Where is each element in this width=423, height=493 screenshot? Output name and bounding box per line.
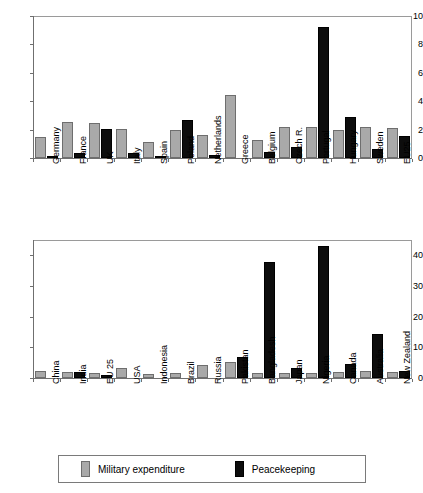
bar-military-expenditure xyxy=(89,123,100,158)
x-tick-mark xyxy=(412,379,413,382)
legend-label-military: Military expenditure xyxy=(98,464,185,475)
x-axis-label: Sweden xyxy=(375,131,385,164)
y-tick-mark xyxy=(30,130,33,131)
y-tick-mark xyxy=(30,16,33,17)
x-axis-label: New Zealand xyxy=(402,331,412,384)
x-axis-label: Australia xyxy=(375,349,385,384)
y-tick-label: 40 xyxy=(396,251,423,260)
chart-legend: Military expenditure Peacekeeping xyxy=(58,455,366,483)
x-axis-label: Nigeria xyxy=(321,355,331,384)
bar-military-expenditure xyxy=(35,137,46,158)
x-axis-label: India xyxy=(78,364,88,384)
x-axis-label: EU25 xyxy=(402,141,412,164)
x-axis-label: Portugal xyxy=(321,130,331,164)
bar-military-expenditure xyxy=(143,142,154,158)
x-axis-label: USA xyxy=(132,365,142,384)
y-tick-label: 20 xyxy=(396,312,423,321)
y-tick-label: 4 xyxy=(396,97,423,106)
y-tick-mark xyxy=(30,255,33,256)
x-axis-label: Belgium xyxy=(267,131,277,164)
legend-label-peacekeeping: Peacekeeping xyxy=(252,464,315,475)
x-axis-label: Greece xyxy=(240,134,250,164)
bar-military-expenditure xyxy=(197,135,208,158)
legend-entry-military: Military expenditure xyxy=(81,456,185,482)
chart-bottom: 010203040 ChinaIndiaEU 25USAIndonesiaBra… xyxy=(0,228,423,440)
bar-military-expenditure xyxy=(306,127,317,158)
bars-bottom xyxy=(0,228,423,440)
bar-military-expenditure xyxy=(333,372,344,378)
y-tick-mark xyxy=(30,286,33,287)
y-tick-label: 6 xyxy=(396,68,423,77)
x-axis-label: Pakistan xyxy=(240,349,250,384)
bar-military-expenditure xyxy=(62,122,73,158)
x-axis-label: Bangladesh xyxy=(267,336,277,384)
y-tick-mark xyxy=(30,73,33,74)
x-tick-mark xyxy=(412,159,413,162)
bar-military-expenditure xyxy=(143,374,154,378)
x-axis-label: Russia xyxy=(213,356,223,384)
x-axis-label: Germany xyxy=(51,127,61,164)
y-tick-mark xyxy=(30,101,33,102)
bar-military-expenditure xyxy=(116,129,127,158)
x-tick-mark xyxy=(385,379,386,382)
x-axis-label: Netherlands xyxy=(213,115,223,164)
x-axis-label: UK xyxy=(105,151,115,164)
bar-military-expenditure xyxy=(279,373,290,378)
bar-military-expenditure xyxy=(360,127,371,158)
x-tick-mark xyxy=(385,159,386,162)
chart-top: 0246810 GermanyFranceUKItalySpainPolandN… xyxy=(0,6,423,214)
y-tick-label: 10 xyxy=(396,12,423,21)
bar-military-expenditure xyxy=(279,127,290,158)
y-tick-label: 8 xyxy=(396,40,423,49)
y-tick-label: 2 xyxy=(396,125,423,134)
x-axis-label: Italy xyxy=(132,147,142,164)
y-tick-mark xyxy=(30,44,33,45)
bar-military-expenditure xyxy=(170,373,181,378)
legend-entry-peacekeeping: Peacekeeping xyxy=(235,456,315,482)
bar-military-expenditure xyxy=(116,368,127,378)
x-axis-label: France xyxy=(78,136,88,164)
x-axis-label: Brazil xyxy=(186,361,196,384)
y-tick-label: 30 xyxy=(396,282,423,291)
legend-swatch-military-icon xyxy=(81,461,90,477)
bars-top xyxy=(0,6,423,214)
x-axis-label: Hungary xyxy=(348,130,358,164)
bar-military-expenditure xyxy=(306,373,317,378)
legend-swatch-peacekeeping-icon xyxy=(235,461,244,477)
x-tick-mark xyxy=(33,379,34,382)
x-axis-label: Canada xyxy=(348,352,358,384)
bar-military-expenditure xyxy=(197,365,208,378)
x-axis-label: Japan xyxy=(294,359,304,384)
x-axis-label: China xyxy=(51,360,61,384)
bar-military-expenditure xyxy=(225,95,236,158)
x-tick-mark xyxy=(33,159,34,162)
bar-military-expenditure xyxy=(89,373,100,378)
bar-military-expenditure xyxy=(360,371,371,378)
x-axis-label: EU 25 xyxy=(105,359,115,384)
x-axis-label: Indonesia xyxy=(159,345,169,384)
y-tick-mark xyxy=(30,347,33,348)
bar-military-expenditure xyxy=(252,140,263,158)
bar-military-expenditure xyxy=(170,130,181,158)
bar-military-expenditure xyxy=(252,373,263,378)
bar-military-expenditure xyxy=(62,372,73,378)
y-tick-mark xyxy=(30,317,33,318)
figure: 0246810 GermanyFranceUKItalySpainPolandN… xyxy=(0,0,423,493)
x-axis-label: Poland xyxy=(186,136,196,164)
x-axis-label: Czech R. xyxy=(294,127,304,164)
bar-military-expenditure xyxy=(35,371,46,378)
x-axis-label: Spain xyxy=(159,141,169,164)
bar-military-expenditure xyxy=(225,362,236,378)
bar-military-expenditure xyxy=(333,130,344,158)
